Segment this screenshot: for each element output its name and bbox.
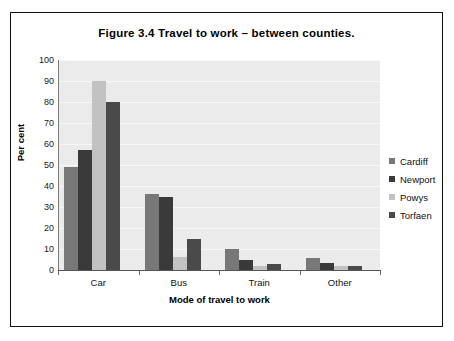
- legend-item-cardiff[interactable]: Cardiff: [389, 153, 449, 169]
- bar-bus-cardiff: [145, 194, 159, 270]
- bar-car-powys: [92, 81, 106, 270]
- y-tick-label: 60: [32, 139, 54, 149]
- x-tick-mark: [58, 271, 59, 275]
- x-tick-label-other: Other: [328, 277, 352, 288]
- legend-swatch-icon: [389, 176, 395, 182]
- y-tick-label: 10: [32, 244, 54, 254]
- x-axis-title: Mode of travel to work: [58, 294, 381, 305]
- y-tick-label: 30: [32, 202, 54, 212]
- legend-swatch-icon: [389, 158, 395, 164]
- bar-bus-torfaen: [187, 239, 201, 271]
- y-tick-label: 70: [32, 118, 54, 128]
- y-tick-label: 20: [32, 223, 54, 233]
- bar-train-cardiff: [225, 249, 239, 270]
- x-tick-mark: [380, 271, 381, 275]
- legend-label: Cardiff: [400, 156, 428, 167]
- bar-bus-powys: [173, 257, 187, 270]
- bar-car-cardiff: [64, 167, 78, 270]
- legend-item-powys[interactable]: Powys: [389, 189, 449, 205]
- bar-other-cardiff: [306, 258, 320, 270]
- bar-bus-newport: [159, 197, 173, 271]
- x-tick-mark: [300, 271, 301, 275]
- y-tick-label: 80: [32, 97, 54, 107]
- y-tick-label: 40: [32, 181, 54, 191]
- bar-other-newport: [320, 263, 334, 270]
- y-tick-label: 90: [32, 76, 54, 86]
- legend-label: Powys: [400, 192, 428, 203]
- legend-swatch-icon: [389, 194, 395, 200]
- x-tick-mark: [219, 271, 220, 275]
- legend-swatch-icon: [389, 212, 395, 218]
- y-tick-label: 100: [32, 55, 54, 65]
- gridline: [58, 81, 380, 82]
- y-tick-label: 50: [32, 160, 54, 170]
- bar-car-newport: [78, 150, 92, 270]
- gridline: [58, 60, 380, 61]
- x-tick-label-car: Car: [91, 277, 106, 288]
- bar-train-newport: [239, 260, 253, 271]
- legend-label: Newport: [400, 174, 435, 185]
- figure-frame: Figure 3.4 Travel to work – between coun…: [10, 12, 443, 327]
- y-tick-label: 0: [32, 265, 54, 275]
- legend-label: Torfaen: [400, 210, 432, 221]
- x-tick-label-bus: Bus: [171, 277, 187, 288]
- y-axis-title: Per cent: [15, 124, 26, 162]
- y-axis-tick-labels: 0102030405060708090100: [29, 60, 54, 271]
- y-axis-line: [58, 60, 59, 271]
- chart-legend: CardiffNewportPowysTorfaen: [389, 153, 449, 225]
- bar-car-torfaen: [106, 102, 120, 270]
- legend-item-torfaen[interactable]: Torfaen: [389, 207, 449, 223]
- chart-title: Figure 3.4 Travel to work – between coun…: [11, 27, 442, 39]
- x-tick-label-train: Train: [249, 277, 270, 288]
- legend-item-newport[interactable]: Newport: [389, 171, 449, 187]
- plot-area: [58, 60, 380, 270]
- x-tick-mark: [139, 271, 140, 275]
